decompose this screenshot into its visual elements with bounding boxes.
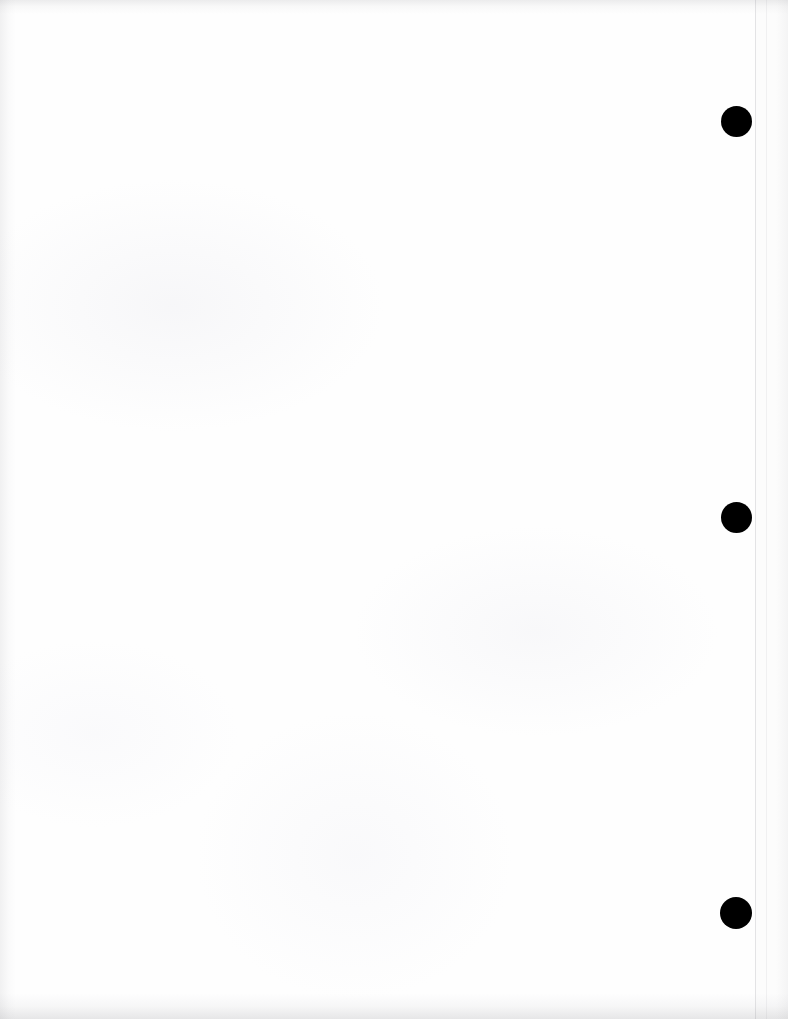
page-edge-strip <box>755 0 788 1019</box>
bottom-punch-mark-icon <box>720 897 752 929</box>
top-punch-mark-icon <box>721 106 752 137</box>
middle-punch-mark-icon <box>721 502 752 533</box>
page-content-area <box>40 40 700 980</box>
sheet-edge-line-secondary <box>766 0 767 1019</box>
sheet-edge-line <box>755 0 756 1019</box>
scanned-page-canvas <box>0 0 788 1019</box>
